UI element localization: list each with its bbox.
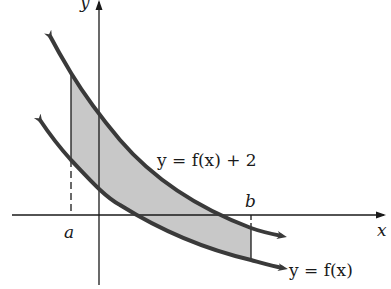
b-label: b <box>245 191 256 211</box>
upper-curve-label: y = f(x) + 2 <box>156 150 257 170</box>
y-axis-label: y <box>79 0 90 12</box>
area-between-curves-diagram: y x a b y = f(x) + 2 y = f(x) <box>0 0 391 289</box>
lower-curve-label: y = f(x) <box>288 260 353 280</box>
a-label: a <box>64 222 74 242</box>
x-axis-label: x <box>377 220 387 240</box>
